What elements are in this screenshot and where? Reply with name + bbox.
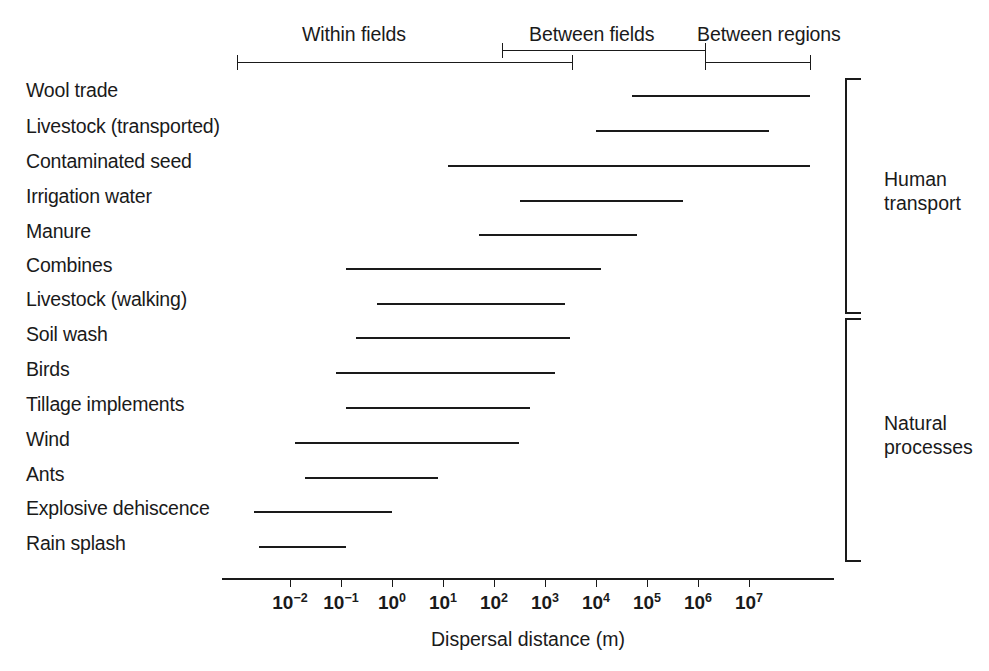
category-label-explosive-dehiscence: Explosive dehiscence bbox=[26, 497, 210, 520]
category-label-birds: Birds bbox=[26, 358, 69, 381]
range-bar-soil-wash bbox=[356, 337, 570, 339]
x-tick-6 bbox=[596, 578, 597, 587]
scale-bar-between-regions bbox=[705, 62, 810, 63]
x-tick-1 bbox=[341, 578, 342, 587]
range-bar-birds bbox=[336, 372, 555, 374]
x-axis-title: Dispersal distance (m) bbox=[431, 628, 625, 651]
scale-label-between-regions: Between regions bbox=[697, 23, 841, 46]
x-tick-label-9: 107 bbox=[735, 592, 763, 614]
category-label-wool-trade: Wool trade bbox=[26, 79, 118, 102]
range-bar-tillage-implements bbox=[346, 407, 530, 409]
range-bar-manure bbox=[479, 234, 637, 236]
category-label-livestock-walking: Livestock (walking) bbox=[26, 288, 187, 311]
x-tick-label-7: 105 bbox=[633, 592, 661, 614]
group-label-natural-processes: Natural processes bbox=[884, 412, 973, 460]
scale-cap-within-fields-left bbox=[237, 55, 238, 70]
group-label-human-transport: Human transport bbox=[884, 168, 961, 216]
scale-cap-between-fields-left bbox=[502, 43, 503, 58]
x-tick-label-3: 101 bbox=[429, 592, 457, 614]
category-label-combines: Combines bbox=[26, 254, 112, 277]
dispersal-distance-chart: Within fields Between fields Between reg… bbox=[0, 0, 989, 671]
x-tick-label-4: 102 bbox=[480, 592, 508, 614]
group-bracket-natural-processes bbox=[845, 318, 861, 562]
x-tick-label-1: 10−1 bbox=[323, 592, 358, 614]
x-tick-label-2: 100 bbox=[378, 592, 406, 614]
x-axis-line bbox=[222, 578, 834, 580]
x-tick-label-0: 10−2 bbox=[272, 592, 307, 614]
scale-label-between-fields: Between fields bbox=[529, 23, 654, 46]
x-tick-9 bbox=[749, 578, 750, 587]
range-bar-contaminated-seed bbox=[448, 165, 810, 167]
scale-bar-within-fields bbox=[237, 62, 573, 63]
x-tick-3 bbox=[443, 578, 444, 587]
range-bar-wind bbox=[295, 442, 519, 444]
scale-cap-between-regions-right bbox=[810, 55, 811, 70]
range-bar-livestock-walking bbox=[377, 303, 566, 305]
scale-cap-within-fields-right bbox=[572, 55, 573, 70]
x-tick-8 bbox=[698, 578, 699, 587]
x-tick-2 bbox=[392, 578, 393, 587]
category-label-rain-splash: Rain splash bbox=[26, 532, 126, 555]
category-label-contaminated-seed: Contaminated seed bbox=[26, 150, 192, 173]
scale-label-within-fields: Within fields bbox=[302, 23, 406, 46]
x-tick-0 bbox=[290, 578, 291, 587]
x-tick-4 bbox=[494, 578, 495, 587]
category-label-wind: Wind bbox=[26, 428, 70, 451]
category-label-ants: Ants bbox=[26, 463, 64, 486]
x-tick-label-5: 103 bbox=[531, 592, 559, 614]
category-label-soil-wash: Soil wash bbox=[26, 323, 108, 346]
range-bar-livestock-transported bbox=[596, 130, 769, 132]
range-bar-combines bbox=[346, 268, 601, 270]
category-label-tillage-implements: Tillage implements bbox=[26, 393, 184, 416]
scale-bar-between-fields bbox=[502, 50, 706, 51]
range-bar-explosive-dehiscence bbox=[254, 511, 392, 513]
x-tick-label-8: 106 bbox=[684, 592, 712, 614]
x-tick-7 bbox=[647, 578, 648, 587]
range-bar-wool-trade bbox=[632, 95, 811, 97]
category-label-livestock-transported: Livestock (transported) bbox=[26, 115, 220, 138]
range-bar-rain-splash bbox=[259, 546, 346, 548]
range-bar-ants bbox=[305, 477, 438, 479]
x-tick-5 bbox=[545, 578, 546, 587]
range-bar-irrigation-water bbox=[520, 200, 683, 202]
scale-cap-between-regions-left bbox=[705, 55, 706, 70]
group-bracket-human-transport bbox=[845, 78, 861, 314]
category-label-manure: Manure bbox=[26, 220, 91, 243]
category-label-irrigation-water: Irrigation water bbox=[26, 185, 152, 208]
x-tick-label-6: 104 bbox=[582, 592, 610, 614]
